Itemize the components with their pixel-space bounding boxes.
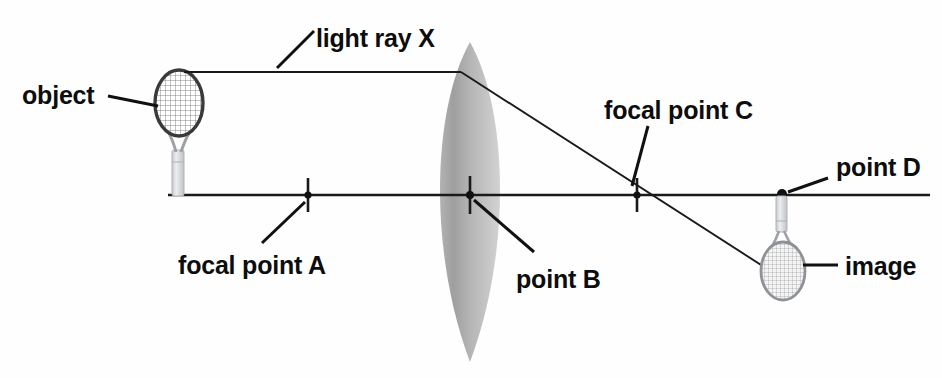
object-racket-handle bbox=[172, 150, 184, 196]
focal-point-a-leader-line bbox=[262, 202, 305, 243]
label-image: image bbox=[845, 252, 917, 280]
focal-point-a-marker bbox=[304, 178, 311, 212]
label-object: object bbox=[22, 81, 95, 109]
light-ray-x-leader-line bbox=[277, 31, 314, 68]
label-point-b: point B bbox=[516, 265, 601, 293]
diagram-canvas: object light ray X focal point C point D… bbox=[0, 0, 942, 378]
label-point-d: point D bbox=[836, 153, 921, 181]
focal-point-c-dot bbox=[633, 191, 640, 198]
point-b-dot bbox=[466, 191, 474, 199]
object-racket-head bbox=[155, 70, 203, 136]
object-racket bbox=[155, 70, 203, 196]
label-focal-point-c: focal point C bbox=[604, 96, 753, 124]
focal-point-c-leader-line bbox=[632, 126, 648, 186]
image-racket bbox=[761, 196, 805, 300]
label-light-ray-x: light ray X bbox=[316, 24, 435, 52]
label-focal-point-a: focal point A bbox=[178, 251, 326, 279]
image-racket-handle bbox=[776, 196, 787, 232]
point-d-leader-line bbox=[788, 178, 828, 192]
focal-point-a-dot bbox=[304, 191, 311, 198]
object-leader-line bbox=[108, 96, 158, 106]
image-racket-head bbox=[761, 242, 805, 300]
optics-ray-diagram: object light ray X focal point C point D… bbox=[0, 0, 942, 378]
